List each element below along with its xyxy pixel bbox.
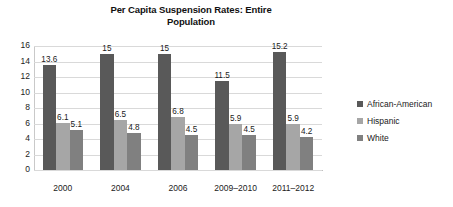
y-axis-tick-label: 8 xyxy=(4,103,30,112)
bar xyxy=(185,135,199,170)
bar xyxy=(70,130,84,170)
bar-value-label: 4.8 xyxy=(121,123,147,132)
x-axis-category-label: 2011–2012 xyxy=(258,183,328,193)
legend-item: African-American xyxy=(357,96,432,111)
bar xyxy=(127,133,141,170)
legend-item: Hispanic xyxy=(357,113,432,128)
chart-title-line-2: Population xyxy=(167,16,215,27)
bar-group: 156.54.8 xyxy=(100,46,141,170)
bar-value-label: 4.5 xyxy=(236,125,262,134)
bar-value-label: 13.6 xyxy=(37,55,63,64)
bar-value-label: 5.9 xyxy=(223,114,249,123)
bar-value-label: 5.1 xyxy=(64,120,90,129)
y-axis-tick-label: 0 xyxy=(4,165,30,174)
chart-title: Per Capita Suspension Rates: Entire Popu… xyxy=(62,4,320,27)
chart-title-line-1: Per Capita Suspension Rates: Entire xyxy=(110,4,271,15)
bar xyxy=(300,137,314,170)
bar-value-label: 6.5 xyxy=(108,110,134,119)
bar-group: 13.66.15.1 xyxy=(43,46,84,170)
bar-value-label: 15 xyxy=(152,44,178,53)
legend-swatch-icon xyxy=(357,135,363,141)
legend-label: Hispanic xyxy=(367,116,400,126)
bar xyxy=(56,123,70,170)
bar-value-label: 15.2 xyxy=(267,42,293,51)
bar xyxy=(215,81,229,170)
bar-value-label: 11.5 xyxy=(209,71,235,80)
bar-value-label: 6.8 xyxy=(165,107,191,116)
y-axis-tick-label: 4 xyxy=(4,134,30,143)
bar-value-label: 5.9 xyxy=(280,114,306,123)
legend-label: African-American xyxy=(367,99,432,109)
y-axis-tick-label: 6 xyxy=(4,119,30,128)
bar-group: 15.25.94.2 xyxy=(273,46,314,170)
bar-group: 156.84.5 xyxy=(158,46,199,170)
chart-legend: African-AmericanHispanicWhite xyxy=(357,96,432,147)
legend-swatch-icon xyxy=(357,118,363,124)
legend-item: White xyxy=(357,130,432,145)
y-axis-tick-label: 2 xyxy=(4,150,30,159)
y-axis-tick-label: 10 xyxy=(4,88,30,97)
gridline xyxy=(34,170,322,171)
y-axis-tick-label: 12 xyxy=(4,72,30,81)
legend-swatch-icon xyxy=(357,101,363,107)
y-axis-tick-label: 14 xyxy=(4,57,30,66)
bar-value-label: 15 xyxy=(94,44,120,53)
bar-value-label: 4.5 xyxy=(179,125,205,134)
bar-value-label: 4.2 xyxy=(294,127,320,136)
bar xyxy=(242,135,256,170)
legend-label: White xyxy=(367,133,389,143)
bar-chart: Per Capita Suspension Rates: Entire Popu… xyxy=(0,0,453,207)
bar xyxy=(273,52,287,170)
y-axis-tick-label: 16 xyxy=(4,41,30,50)
plot-area: 13.66.15.1156.54.8156.84.511.55.94.515.2… xyxy=(34,46,322,170)
bar-group: 11.55.94.5 xyxy=(215,46,256,170)
